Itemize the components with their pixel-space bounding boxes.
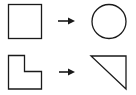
l-shape [9, 56, 42, 90]
right-triangle-shape [91, 56, 126, 89]
diagram-canvas: Shape transformation analogy: square map… [0, 0, 136, 95]
arrow-right-icon [58, 18, 75, 25]
arrow-right-icon [59, 69, 75, 76]
row-1 [9, 5, 127, 39]
square-shape [9, 5, 42, 39]
row-2 [9, 56, 127, 90]
circle-shape [92, 5, 126, 39]
